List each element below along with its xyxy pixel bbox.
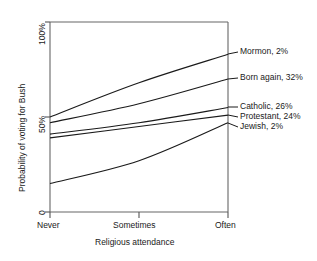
series-lines <box>50 54 228 183</box>
leader-jewish <box>228 123 238 127</box>
series-label-born-again: Born again, 32% <box>240 73 303 82</box>
series-line-jewish <box>50 123 228 184</box>
x-tick-label-sometimes: Sometimes <box>113 221 156 230</box>
y-tick-label-50: 50% <box>38 116 47 133</box>
y-axis-title: Probability of voting for Bush <box>18 84 27 192</box>
y-tick-label-100: 100% <box>38 23 47 45</box>
leader-protestant <box>228 115 238 117</box>
leader-born-again <box>228 78 238 79</box>
series-line-born-again <box>50 79 228 123</box>
y-tick-label-0: 0 <box>38 210 47 215</box>
x-tick-label-often: Often <box>215 221 236 230</box>
series-line-mormon <box>50 54 228 117</box>
series-label-mormon: Mormon, 2% <box>240 47 288 56</box>
x-tick-marks <box>50 212 228 218</box>
series-label-protestant: Protestant, 24% <box>240 112 300 121</box>
x-tick-label-never: Never <box>37 221 60 230</box>
label-leader-lines <box>228 52 238 127</box>
series-label-jewish: Jewish, 2% <box>240 122 283 131</box>
series-label-catholic: Catholic, 26% <box>240 102 292 111</box>
leader-mormon <box>228 52 238 54</box>
chart-figure: Probability of voting for Bush 100% 50% … <box>0 0 317 261</box>
x-axis-title: Religious attendance <box>95 238 174 247</box>
series-line-catholic <box>50 108 228 135</box>
